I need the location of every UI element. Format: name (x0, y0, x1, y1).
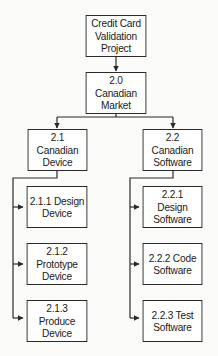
wbs-diagram: Credit Card Validation Project 2.0 Canad… (0, 0, 218, 356)
node-2-0-canadian-market: 2.0 Canadian Market (86, 72, 147, 114)
node-2-2-3-test-software: 2.2.3 Test Software (143, 300, 203, 342)
node-2-2-canadian-software: 2.2 Canadian Software (143, 129, 203, 171)
node-root-project: Credit Card Validation Project (86, 15, 147, 57)
node-2-1-1-design-device: 2.1.1 Design Device (27, 186, 88, 228)
node-2-1-3-produce-device: 2.1.3 Produce Device (27, 300, 88, 342)
node-2-2-1-design-software: 2.2.1 Design Software (143, 186, 203, 228)
node-2-1-canadian-device: 2.1 Canadian Device (28, 129, 88, 171)
node-2-2-2-code-software: 2.2.2 Code Software (143, 243, 203, 285)
node-2-1-2-prototype-device: 2.1.2 Prototype Device (27, 243, 88, 285)
